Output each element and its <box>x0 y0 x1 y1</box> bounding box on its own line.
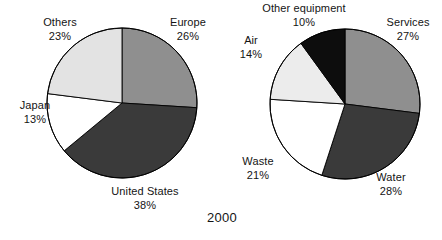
slice-label-japan: Japan 13% <box>4 99 66 126</box>
pie-chart-figure: Others 23% Europe 26% Japan 13% United S… <box>0 0 442 240</box>
slice-label-air: Air 14% <box>228 34 274 61</box>
slice-label-air-value: 14% <box>228 48 274 62</box>
slice-label-services: Services 27% <box>375 16 441 43</box>
pie-chart-right <box>270 29 420 179</box>
slice-label-water-name: Water <box>360 171 422 185</box>
slice-label-europe-name: Europe <box>152 16 224 30</box>
slice-label-other-equipment-value: 10% <box>245 16 363 30</box>
slice-label-others-value: 23% <box>24 30 96 44</box>
slice-label-united-states: United States 38% <box>90 185 200 212</box>
pie-chart-left <box>47 28 197 178</box>
slice-label-water-value: 28% <box>360 185 422 199</box>
slice-label-other-equipment: Other equipment 10% <box>245 2 363 29</box>
slice-label-services-name: Services <box>375 16 441 30</box>
slice-label-europe: Europe 26% <box>152 16 224 43</box>
slice-label-japan-value: 13% <box>4 113 66 127</box>
figure-caption-year: 2000 <box>182 210 262 225</box>
slice-label-waste-name: Waste <box>227 155 289 169</box>
slice-label-water: Water 28% <box>360 171 422 198</box>
slice-label-others: Others 23% <box>24 16 96 43</box>
slice-label-services-value: 27% <box>375 30 441 44</box>
slice-label-other-equipment-name: Other equipment <box>245 2 363 16</box>
slice-label-others-name: Others <box>24 16 96 30</box>
slice-label-japan-name: Japan <box>4 99 66 113</box>
slice-label-europe-value: 26% <box>152 30 224 44</box>
slice-label-waste: Waste 21% <box>227 155 289 182</box>
slice-label-air-name: Air <box>228 34 274 48</box>
slice-label-waste-value: 21% <box>227 169 289 183</box>
slice-label-united-states-name: United States <box>90 185 200 199</box>
